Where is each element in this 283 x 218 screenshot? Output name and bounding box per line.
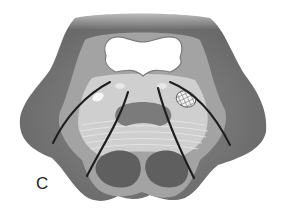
panel-label: C [36, 174, 48, 194]
figure-panel: C [0, 0, 283, 218]
tissue-highlight [115, 83, 125, 89]
central-cavity [105, 37, 182, 76]
